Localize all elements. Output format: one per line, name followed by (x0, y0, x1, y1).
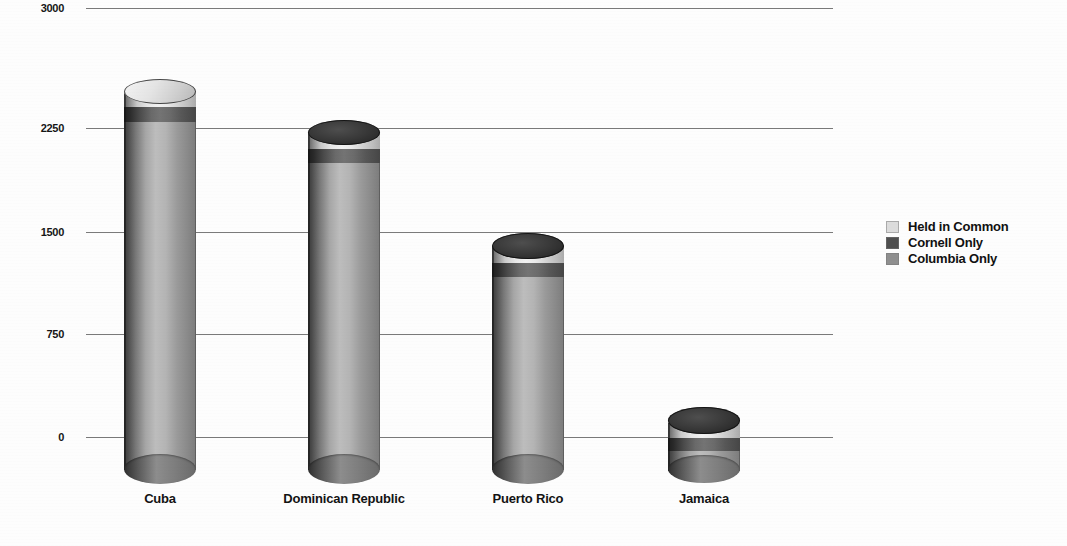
ytick-label-750: 750 (2, 329, 64, 340)
xtick-label-jamaica: Jamaica (634, 492, 774, 506)
legend-swatch-cornell-only-icon (886, 237, 899, 249)
ytick-label-2250: 2250 (2, 123, 64, 134)
bar-segment-columbia-only (124, 121, 196, 470)
ytick-label-0: 0 (2, 432, 64, 443)
bar-puerto-rico[interactable] (492, 233, 564, 470)
legend-label-columbia-only: Columbia Only (908, 251, 997, 266)
chart-canvas: 3000 2250 1500 750 0 (0, 0, 1067, 546)
bar-top-ellipse (668, 407, 740, 434)
bar-bottom-ellipse (124, 454, 196, 484)
bar-segment-columbia-only (308, 162, 380, 470)
bar-dominican-republic[interactable] (308, 120, 380, 470)
bar-top-ellipse (308, 120, 380, 145)
gridline-1500 (86, 232, 833, 233)
ytick-label-3000: 3000 (2, 3, 64, 14)
legend-item-columbia-only[interactable]: Columbia Only (886, 251, 1061, 266)
legend-item-cornell-only[interactable]: Cornell Only (886, 235, 1061, 250)
legend-swatch-columbia-only-icon (886, 253, 899, 265)
bar-segment-columbia-only (492, 276, 564, 470)
xtick-label-cuba: Cuba (90, 492, 230, 506)
bar-bottom-ellipse (668, 455, 740, 483)
xtick-label-dominican-republic: Dominican Republic (254, 492, 434, 506)
gridline-2250 (86, 128, 833, 129)
ytick-label-1500: 1500 (2, 227, 64, 238)
bar-segment-cornell-only (124, 106, 196, 122)
bar-top-ellipse (124, 79, 196, 104)
bar-bottom-ellipse (308, 454, 380, 484)
gridline-3000 (86, 8, 833, 9)
legend-label-held-in-common: Held in Common (908, 219, 1008, 234)
legend-swatch-held-in-common-icon (886, 221, 899, 233)
bar-segment-cornell-only (668, 437, 740, 451)
bar-segment-cornell-only (308, 148, 380, 163)
chart-legend: Held in Common Cornell Only Columbia Onl… (886, 219, 1061, 267)
bar-segment-cornell-only (492, 262, 564, 277)
gridline-750 (86, 334, 833, 335)
bar-top-ellipse (492, 233, 564, 259)
bar-bottom-ellipse (492, 454, 564, 484)
xtick-label-puerto-rico: Puerto Rico (458, 492, 598, 506)
legend-label-cornell-only: Cornell Only (908, 235, 983, 250)
bar-jamaica[interactable] (668, 407, 740, 471)
bar-cuba[interactable] (124, 79, 196, 470)
legend-item-held-in-common[interactable]: Held in Common (886, 219, 1061, 234)
